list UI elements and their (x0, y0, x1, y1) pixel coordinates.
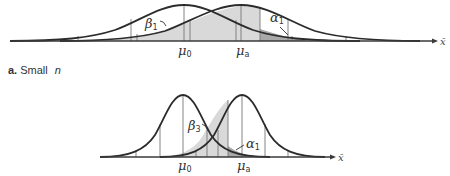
panel-letter: a. (8, 64, 17, 76)
panel-b-large-n: x̄ μ0 μa β3 α1 (100, 95, 344, 174)
alpha-pointer-arrow-b (236, 145, 244, 150)
mu0-label-a: μ0 (178, 43, 192, 59)
panel-a-caption: a. Small n (8, 64, 61, 76)
alpha-label-a: α1 (270, 10, 284, 26)
alpha-pointer-arrow-a (280, 27, 288, 35)
mua-label-a: μa (236, 43, 249, 59)
alpha-label-b: α1 (246, 136, 260, 152)
axis-label-xbar-a: x̄ (440, 36, 446, 47)
beta-label-b: β3 (187, 118, 201, 134)
alt-distribution-curve-b (160, 95, 325, 157)
axis-arrow-b (330, 155, 336, 160)
axis-label-xbar-b: x̄ (338, 152, 344, 163)
mua-label-b: μa (237, 158, 250, 174)
null-distribution-curve-b (100, 95, 270, 157)
axis-arrow-a (432, 39, 438, 44)
mu0-label-b: μ0 (178, 158, 192, 174)
beta-pointer-arrow-a (160, 21, 166, 26)
panel-caption-text: Small (20, 64, 48, 76)
panel-a-small-n: x̄ μ0 μa β1 α1 (10, 5, 446, 59)
diagram-canvas: x̄ μ0 μa β1 α1 (0, 0, 450, 176)
panel-caption-var: n (55, 64, 61, 76)
beta-label-a: β1 (144, 16, 158, 32)
